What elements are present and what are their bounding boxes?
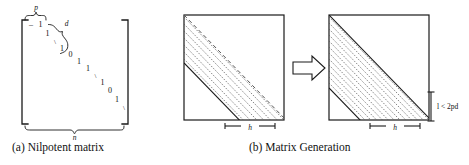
matrix-diagonal-entries: – 1 1 \ 1 0 1 1 \ 1 0 1 \: [28, 20, 125, 112]
diag-dash-1: \: [54, 38, 56, 46]
figure-root: p d n – 1 1 \ 1 0 1 1 \ 1 0 1 \ (a) Ni: [0, 0, 469, 165]
matrix-left-bracket: [22, 20, 28, 124]
diag-entry-7: 0: [108, 86, 112, 95]
diag-dash-3: \: [123, 104, 125, 112]
diag-entry-1: 1: [46, 29, 50, 38]
panel-b-caption: (b) Matrix Generation: [249, 141, 351, 153]
source-matrix-square: [184, 15, 286, 140]
brace-n-label: n: [73, 133, 77, 140]
panel-a-nilpotent-matrix: p d n – 1 1 \ 1 0 1 1 \ 1 0 1 \: [0, 0, 175, 140]
generated-matrix-l-label: l < 2pd: [437, 102, 459, 111]
generated-matrix-h-label: h: [393, 123, 397, 132]
diag-entry-8: 1: [115, 95, 119, 104]
diag-entry-0: 1: [39, 20, 43, 29]
panel-b-matrix-generation: h: [169, 0, 469, 140]
panel-a-caption: (a) Nilpotent matrix: [12, 141, 104, 153]
diag-dash: –: [28, 20, 34, 29]
brace-d-label: d: [65, 19, 69, 28]
diag-entry-5: 1: [86, 64, 90, 73]
brace-p: [25, 12, 46, 20]
source-matrix-h-label: h: [248, 123, 252, 132]
diag-entry-3: 0: [69, 50, 73, 59]
generated-matrix-square: [329, 15, 431, 140]
diag-entry-6: 1: [101, 78, 105, 87]
diag-entry-2: 1: [60, 44, 64, 53]
brace-d: [49, 25, 68, 54]
diag-entry-4: 1: [77, 57, 81, 66]
brace-p-label: p: [33, 3, 38, 12]
transform-arrow-icon: [293, 56, 325, 80]
diag-dash-2: \: [95, 72, 97, 80]
